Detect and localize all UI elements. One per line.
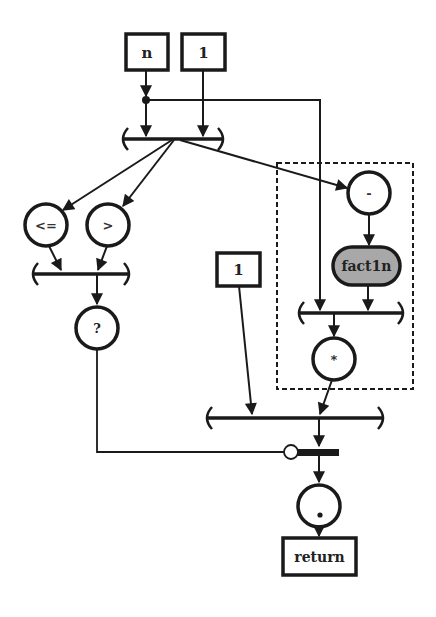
op-dot-glyph [317,512,322,517]
output-return-label: return [294,549,344,565]
op-minus-label: - [366,186,371,201]
input-one-mid-label: 1 [233,261,243,279]
output-box-return: return [283,538,356,575]
tuple-bar-wide [207,407,383,429]
tuple-bar-left [33,263,129,285]
op-cond: ? [76,307,118,349]
input-box-one-mid: 1 [217,253,260,286]
subroutine-label: fact1n [341,258,391,274]
op-minus: - [348,172,390,214]
op-le-label: <= [35,218,57,233]
subroutine-fact1n: fact1n [333,247,400,285]
edge-one-to-bar [239,286,252,414]
fork-dot [142,96,150,104]
gate [284,445,339,459]
dataflow-diagram: n 1 <= > [0,0,436,617]
op-gt-label: > [103,218,114,233]
op-le: <= [25,204,67,246]
input-n-label: n [142,44,153,62]
tuple-bar-top [123,128,223,150]
gate-inhibitor-circle [284,445,298,459]
input-one-top-label: 1 [198,44,208,62]
edge-cond-to-gate [97,349,285,452]
op-mult-label: * [331,352,338,367]
edge-mult-to-bar [320,380,332,414]
edges-from-top-bar [63,140,347,210]
op-gt: > [87,204,129,246]
tuple-bar-right [299,302,403,324]
input-box-n: n [126,34,168,70]
op-mult: * [313,338,355,380]
op-cond-label: ? [93,321,101,336]
input-box-one-top: 1 [182,34,225,70]
